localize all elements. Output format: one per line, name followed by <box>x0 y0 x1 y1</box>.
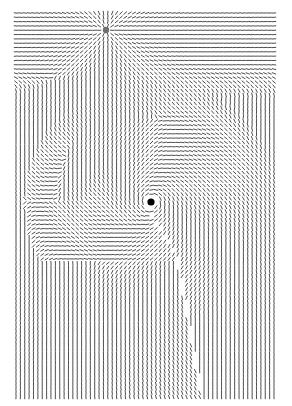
vector-field-segments <box>14 11 276 399</box>
field-lines <box>14 11 276 399</box>
sink-point <box>147 198 154 205</box>
vector-field-plot <box>0 0 292 406</box>
source-point <box>103 27 109 33</box>
